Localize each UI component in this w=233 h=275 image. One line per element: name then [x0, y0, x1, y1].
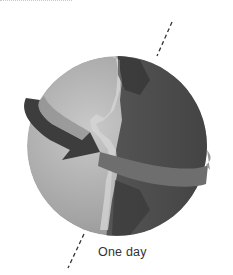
axis-line-bottom [68, 234, 84, 268]
caption: One day [98, 245, 147, 259]
earth-rotation-diagram [0, 0, 233, 275]
axis-line-top [157, 22, 172, 56]
